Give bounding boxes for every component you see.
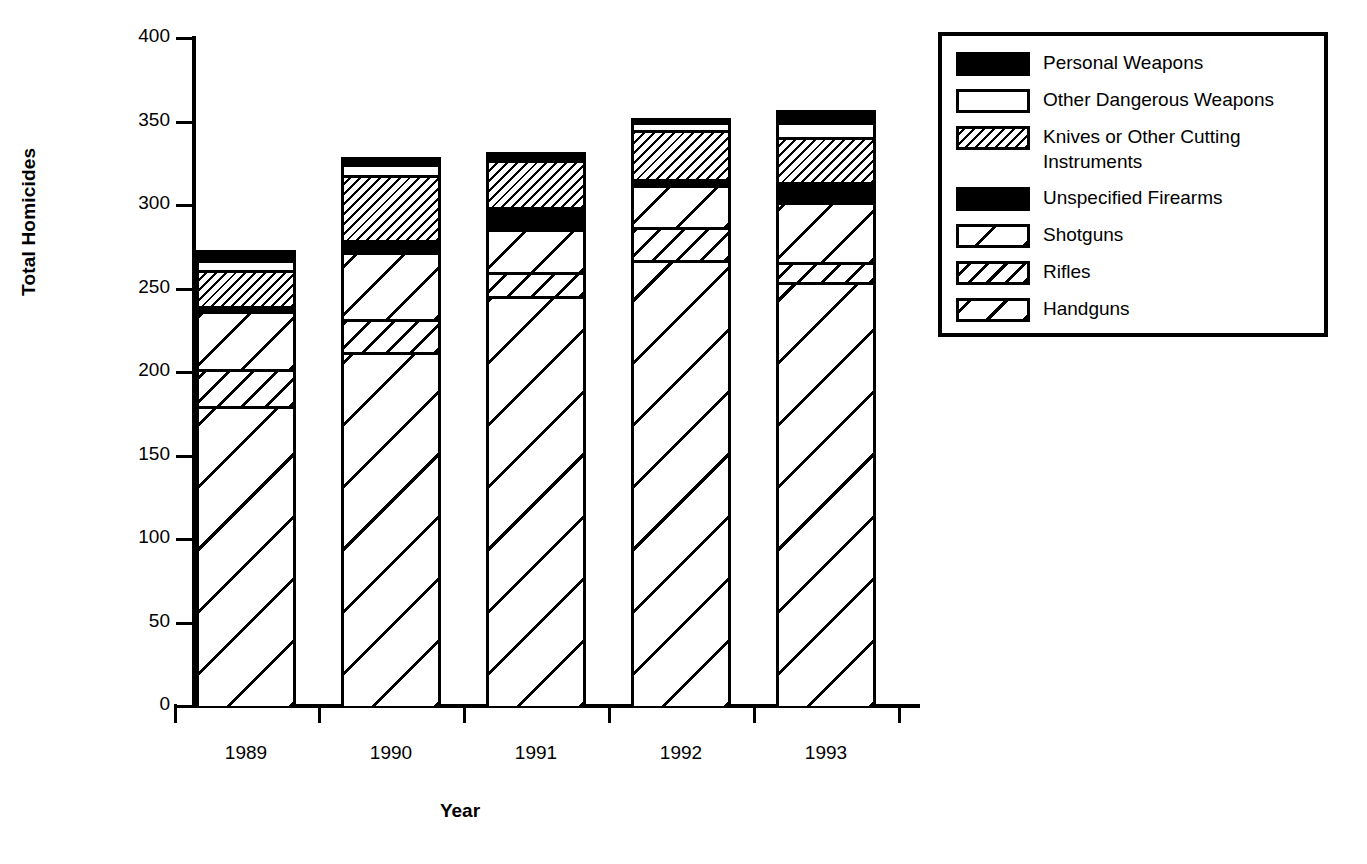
bar-segment-1991-unspecified-firearms[interactable] (486, 210, 586, 232)
x-axis-title: Year (0, 800, 920, 822)
legend-label-other-dangerous-weapons: Other Dangerous Weapons (1043, 87, 1274, 112)
plot-area (196, 38, 920, 706)
bar-segment-1990-shotguns[interactable] (341, 255, 441, 322)
bar-1989[interactable] (196, 250, 296, 706)
legend-item-unspecified-firearms[interactable]: Unspecified Firearms (956, 185, 1314, 211)
y-tick-150 (176, 455, 196, 458)
x-tick-label-1990: 1990 (321, 742, 461, 764)
y-tick-50 (176, 622, 196, 625)
x-tick-label-1989: 1989 (176, 742, 316, 764)
y-axis-title: Total Homicides (18, 36, 40, 296)
bar-1990[interactable] (341, 157, 441, 706)
y-tick-label-0: 0 (108, 693, 170, 715)
y-tick-label-100: 100 (108, 526, 170, 548)
bar-segment-1992-shotguns[interactable] (631, 188, 731, 230)
bar-segment-1992-unspecified-firearms[interactable] (631, 182, 731, 189)
y-axis-title-text: Total Homicides (18, 36, 40, 296)
y-tick-label-200: 200 (108, 359, 170, 381)
bar-segment-1990-knives-or-other-cutting-instruments[interactable] (341, 178, 441, 243)
x-tick-label-1991: 1991 (466, 742, 606, 764)
bar-segment-1990-rifles[interactable] (341, 322, 441, 355)
bar-segment-1989-other-dangerous-weapons[interactable] (196, 263, 296, 273)
bar-1993[interactable] (776, 110, 876, 706)
legend-label-personal-weapons: Personal Weapons (1043, 50, 1203, 75)
legend-label-rifles: Rifles (1043, 259, 1091, 284)
x-tick-label-1993: 1993 (756, 742, 896, 764)
bar-segment-1993-rifles[interactable] (776, 265, 876, 285)
y-tick-label-300: 300 (108, 192, 170, 214)
bar-1992[interactable] (631, 118, 731, 706)
bar-segment-1992-personal-weapons[interactable] (631, 118, 731, 125)
y-tick-label-400: 400 (108, 25, 170, 47)
x-tick-1993 (898, 704, 901, 723)
legend-swatch-other-dangerous-weapons (956, 89, 1030, 113)
bar-segment-1991-handguns[interactable] (486, 299, 586, 706)
x-tick-1989 (318, 704, 321, 723)
y-tick-label-50: 50 (108, 610, 170, 632)
bar-segment-1990-personal-weapons[interactable] (341, 157, 441, 167)
legend-label-knives-or-other-cutting: Knives or Other CuttingInstruments (1043, 124, 1240, 174)
legend-label-handguns: Handguns (1043, 296, 1130, 321)
legend-swatch-knives-or-other-cutting (956, 126, 1030, 150)
legend-label-line2-knives-or-other-cutting: Instruments (1043, 149, 1240, 174)
legend-swatch-unspecified-firearms (956, 187, 1030, 211)
x-tick-label-1992: 1992 (611, 742, 751, 764)
bar-segment-1989-rifles[interactable] (196, 372, 296, 409)
legend-item-knives-or-other-cutting[interactable]: Knives or Other CuttingInstruments (956, 124, 1314, 174)
legend-item-personal-weapons[interactable]: Personal Weapons (956, 50, 1314, 76)
bar-segment-1993-unspecified-firearms[interactable] (776, 185, 876, 205)
y-tick-100 (176, 538, 196, 541)
y-tick-label-350: 350 (108, 109, 170, 131)
bar-1991[interactable] (486, 152, 586, 706)
bar-segment-1992-rifles[interactable] (631, 230, 731, 263)
bar-segment-1989-unspecified-firearms[interactable] (196, 309, 296, 314)
legend-item-handguns[interactable]: Handguns (956, 296, 1314, 322)
bar-segment-1993-other-dangerous-weapons[interactable] (776, 125, 876, 140)
bar-segment-1992-handguns[interactable] (631, 263, 731, 706)
bar-segment-1993-personal-weapons[interactable] (776, 110, 876, 125)
bar-segment-1991-other-dangerous-weapons[interactable] (486, 160, 586, 163)
x-tick-1992 (753, 704, 756, 723)
bar-segment-1991-personal-weapons[interactable] (486, 152, 586, 160)
bar-segment-1992-knives-or-other-cutting-instruments[interactable] (631, 133, 731, 181)
bar-segment-1992-other-dangerous-weapons[interactable] (631, 125, 731, 133)
x-tick-1991 (608, 704, 611, 723)
bar-segment-1990-other-dangerous-weapons[interactable] (341, 167, 441, 179)
y-tick-400 (176, 37, 196, 40)
bar-segment-1993-knives-or-other-cutting-instruments[interactable] (776, 140, 876, 185)
bar-segment-1991-knives-or-other-cutting-instruments[interactable] (486, 163, 586, 210)
y-tick-label-150: 150 (108, 443, 170, 465)
x-tick-1990 (463, 704, 466, 723)
y-tick-300 (176, 204, 196, 207)
legend-swatch-shotguns (956, 224, 1030, 248)
bar-segment-1989-handguns[interactable] (196, 409, 296, 706)
bar-segment-1990-unspecified-firearms[interactable] (341, 243, 441, 255)
bar-segment-1993-handguns[interactable] (776, 285, 876, 706)
y-tick-200 (176, 371, 196, 374)
legend: Personal WeaponsOther Dangerous WeaponsK… (938, 32, 1328, 337)
y-tick-350 (176, 121, 196, 124)
y-tick-label-250: 250 (108, 276, 170, 298)
bar-segment-1990-handguns[interactable] (341, 355, 441, 706)
legend-swatch-rifles (956, 261, 1030, 285)
legend-item-rifles[interactable]: Rifles (956, 259, 1314, 285)
legend-item-other-dangerous-weapons[interactable]: Other Dangerous Weapons (956, 87, 1314, 113)
legend-label-shotguns: Shotguns (1043, 222, 1123, 247)
legend-label-unspecified-firearms: Unspecified Firearms (1043, 185, 1223, 210)
bar-segment-1989-knives-or-other-cutting-instruments[interactable] (196, 273, 296, 308)
legend-swatch-handguns (956, 298, 1030, 322)
bar-segment-1989-shotguns[interactable] (196, 314, 296, 372)
chart-canvas: Total Homicides 050100150200250300350400… (0, 0, 1367, 864)
x-tick-origin (174, 704, 177, 723)
bar-segment-1993-shotguns[interactable] (776, 205, 876, 265)
y-tick-0 (176, 705, 196, 708)
bar-segment-1991-rifles[interactable] (486, 275, 586, 298)
legend-item-shotguns[interactable]: Shotguns (956, 222, 1314, 248)
bar-segment-1991-shotguns[interactable] (486, 232, 586, 275)
x-axis-title-text: Year (440, 800, 480, 821)
bar-segment-1989-personal-weapons[interactable] (196, 250, 296, 263)
legend-swatch-personal-weapons (956, 52, 1030, 76)
y-tick-250 (176, 288, 196, 291)
